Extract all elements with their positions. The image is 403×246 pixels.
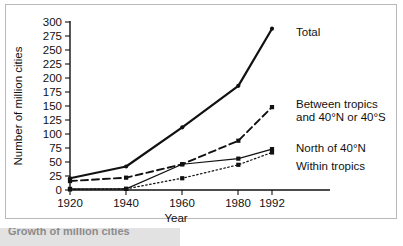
- x-tick-label: 1980: [225, 197, 251, 209]
- data-point: [68, 187, 72, 191]
- series-layer: [68, 27, 290, 192]
- y-tick-label: 225: [43, 58, 62, 70]
- y-axis-ticks: 0 25 50 75 100 125 150 175 200 225 250 2…: [43, 16, 70, 196]
- series-label-within-tropics: Within tropics: [296, 160, 365, 172]
- figure-root: Number of million cities 0 25 50 75 100 …: [0, 0, 403, 246]
- data-point: [270, 150, 274, 154]
- figure-caption-text: Growth of million cities: [8, 228, 130, 237]
- y-tick-label: 0: [56, 184, 62, 196]
- y-tick-label: 150: [43, 100, 62, 112]
- label-leader-2: [272, 152, 290, 166]
- series-label-between-tropics-line2: and 40°N or 40°S: [296, 111, 386, 123]
- data-point: [236, 139, 240, 143]
- x-tick-label: 1920: [57, 197, 83, 209]
- y-tick-label: 75: [49, 142, 62, 154]
- data-point: [236, 84, 240, 88]
- y-tick-label: 250: [43, 44, 62, 56]
- figure-caption-strip: Growth of million cities: [0, 228, 180, 246]
- data-point: [236, 163, 240, 167]
- x-tick-label: 1940: [113, 197, 139, 209]
- series-line-1: [70, 107, 272, 181]
- x-tick-label: 1960: [169, 197, 195, 209]
- y-tick-label: 175: [43, 86, 62, 98]
- data-point: [124, 176, 128, 180]
- y-tick-label: 200: [43, 72, 62, 84]
- data-point: [124, 164, 128, 168]
- label-leader-1: [272, 148, 290, 149]
- y-tick-label: 50: [49, 156, 62, 168]
- data-point: [270, 27, 274, 31]
- x-tick-label: 1992: [259, 197, 285, 209]
- data-point: [236, 157, 240, 161]
- x-axis-title: Year: [164, 212, 187, 224]
- series-label-between-tropics-line1: Between tropics: [296, 98, 378, 110]
- series-line-2: [70, 149, 272, 189]
- data-point: [180, 125, 184, 129]
- data-point: [180, 176, 184, 180]
- series-label-total: Total: [296, 26, 320, 38]
- data-point: [180, 162, 184, 166]
- x-axis-ticks: 1920 1940 1960 1980 1992: [57, 190, 285, 209]
- series-label-north-of-40n: North of 40°N: [296, 142, 366, 154]
- data-point: [124, 187, 128, 191]
- y-tick-label: 275: [43, 30, 62, 42]
- line-chart: Number of million cities 0 25 50 75 100 …: [0, 0, 403, 225]
- y-tick-label: 125: [43, 114, 62, 126]
- y-tick-label: 300: [43, 16, 62, 28]
- data-point: [270, 105, 274, 109]
- data-point: [68, 179, 72, 183]
- series-line-0: [70, 29, 272, 179]
- y-tick-label: 100: [43, 128, 62, 140]
- y-axis-title: Number of million cities: [12, 46, 24, 165]
- y-tick-label: 25: [49, 170, 62, 182]
- label-leader-0: [272, 104, 290, 107]
